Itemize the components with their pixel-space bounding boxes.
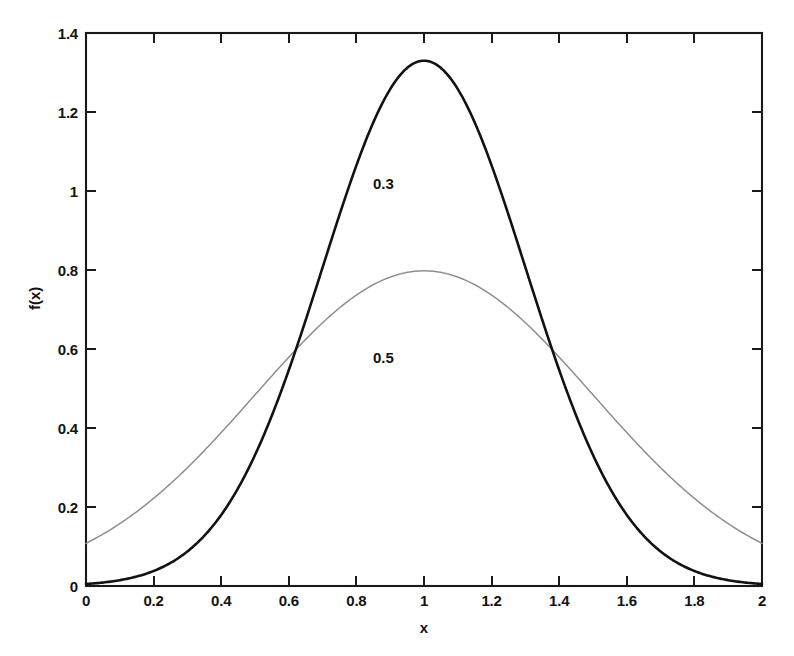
plot-canvas: [0, 0, 794, 656]
x-tick-label: 1.8: [684, 592, 704, 609]
curve-sigma-0-3: [86, 61, 762, 584]
x-axis-ticks-bottom: [86, 576, 762, 586]
x-tick-label: 0.4: [211, 592, 231, 609]
x-tick-label: 0: [82, 592, 90, 609]
x-tick-label: 0.6: [279, 592, 299, 609]
x-tick-label: 1: [420, 592, 428, 609]
x-tick-label: 1.2: [481, 592, 501, 609]
y-tick-label: 0.4: [58, 420, 78, 437]
y-axis-ticks-left: [86, 33, 96, 586]
figure-container: 0 0.2 0.4 0.6 0.8 1 1.2 1.4 1.6 1.8 2 0 …: [0, 0, 794, 656]
x-tick-label: 2: [758, 592, 766, 609]
curve-sigma-0-5: [86, 271, 762, 544]
x-tick-label: 0.2: [143, 592, 163, 609]
plot-frame: [86, 33, 762, 586]
y-tick-label: 1: [70, 183, 78, 200]
y-tick-label: 0.6: [58, 341, 78, 358]
y-axis-title: f(x): [26, 287, 43, 310]
y-tick-label: 0.2: [58, 499, 78, 516]
y-axis-ticks-right: [752, 33, 762, 586]
y-tick-label: 0.8: [58, 262, 78, 279]
y-tick-label: 1.4: [58, 25, 78, 42]
x-axis-title: x: [420, 619, 428, 636]
curve-label-sigma-0-5: 0.5: [373, 348, 394, 365]
x-axis-ticks-top: [86, 33, 762, 43]
y-tick-label: 1.2: [58, 104, 78, 121]
x-tick-label: 1.4: [549, 592, 569, 609]
x-tick-label: 0.8: [346, 592, 366, 609]
curve-label-sigma-0-3: 0.3: [373, 175, 394, 192]
x-tick-label: 1.6: [617, 592, 637, 609]
y-tick-label: 0: [70, 578, 78, 595]
